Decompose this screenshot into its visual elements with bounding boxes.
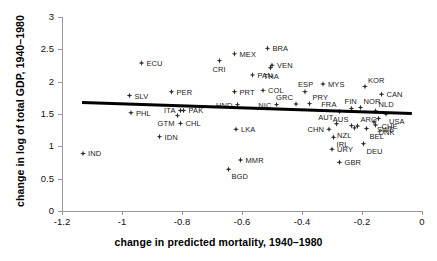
- y-tick-label: 2.5: [32, 43, 54, 54]
- y-tick-label: 1: [32, 140, 54, 151]
- scatter-plot-figure: -1.2-1-0.8-0.6-0.4-0.20 00.511.522.53 IN…: [0, 0, 437, 261]
- y-tick: [58, 179, 62, 180]
- y-tick: [58, 17, 62, 18]
- y-tick: [58, 82, 62, 83]
- y-tick-label: 1.5: [32, 108, 54, 119]
- y-tick: [58, 146, 62, 147]
- data-point-label: ESP: [298, 80, 313, 89]
- data-point-label: GTM: [158, 119, 175, 128]
- data-point-label: KOR: [368, 76, 385, 85]
- data-point-label: PRT: [240, 88, 255, 97]
- x-tick: [182, 211, 183, 215]
- data-point-label: NZL: [337, 131, 351, 140]
- data-point-label: LKA: [241, 125, 255, 134]
- data-point-label: FIN: [345, 97, 357, 106]
- data-point-label: CHN: [307, 125, 324, 134]
- data-point-label: DEU: [367, 147, 383, 156]
- data-point-label: ECU: [147, 59, 163, 68]
- data-point-label: GBR: [345, 158, 362, 167]
- data-point-label: ITA: [164, 106, 175, 115]
- y-tick: [58, 211, 62, 212]
- y-tick: [58, 114, 62, 115]
- x-tick: [302, 211, 303, 215]
- data-point-label: SLV: [135, 92, 149, 101]
- data-point-label: NLD: [379, 100, 394, 109]
- x-tick: [62, 211, 63, 215]
- x-tick: [122, 211, 123, 215]
- x-tick: [362, 211, 363, 215]
- data-point-label: CHL: [186, 119, 201, 128]
- x-tick-label: -0.6: [222, 216, 262, 227]
- data-point-label: AUT: [318, 113, 333, 122]
- data-point-label: AUS: [333, 115, 349, 124]
- x-tick-label: -0.8: [162, 216, 202, 227]
- x-tick-label: -0.2: [342, 216, 382, 227]
- data-point-label: MMR: [246, 156, 264, 165]
- data-point-label: IDN: [165, 133, 178, 142]
- data-point-label: BGD: [232, 172, 249, 181]
- data-point-label: IND: [88, 149, 101, 158]
- x-axis-label: change in predicted mortality, 1940–1980: [0, 236, 437, 248]
- y-tick-label: 0.5: [32, 173, 54, 184]
- data-point-label: BRA: [273, 44, 289, 53]
- data-point-label: PER: [177, 88, 193, 97]
- data-point-label: USA: [389, 117, 405, 126]
- x-tick-label: -1.2: [42, 216, 82, 227]
- data-point-label: VEN: [277, 61, 293, 70]
- data-point-label: CRI: [213, 65, 226, 74]
- data-point-label: MEX: [240, 50, 257, 59]
- data-point-label: CAN: [387, 90, 403, 99]
- y-tick-label: 0: [32, 205, 54, 216]
- y-tick-label: 2: [32, 76, 54, 87]
- data-point-label: THA: [264, 72, 279, 81]
- data-point-label: GRC: [276, 93, 293, 102]
- data-point-label: MYS: [328, 80, 345, 89]
- x-tick: [422, 211, 423, 215]
- x-tick-label: -0.4: [282, 216, 322, 227]
- x-tick-label: 0: [402, 216, 437, 227]
- y-tick-label: 3: [32, 11, 54, 22]
- y-tick: [58, 49, 62, 50]
- data-point-label: IRL: [337, 140, 349, 149]
- data-point-label: PHL: [136, 109, 151, 118]
- y-axis-label: change in log of total GDP, 1940–1980: [14, 15, 26, 207]
- x-tick-label: -1: [102, 216, 142, 227]
- x-tick: [242, 211, 243, 215]
- y-axis-line: [62, 17, 63, 212]
